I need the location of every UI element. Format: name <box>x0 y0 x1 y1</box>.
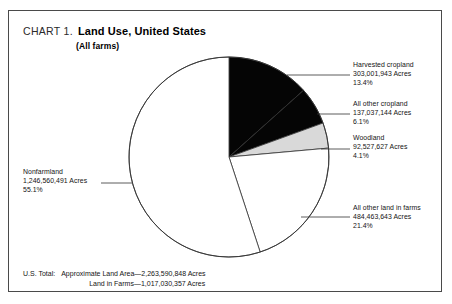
callout-other-cropland-acres: 137,037,144 Acres <box>353 108 411 117</box>
callout-other-land-percent: 21.4% <box>353 221 421 230</box>
callout-harvested-cropland: Harvested cropland 303,001,943 Acres 13.… <box>353 60 414 88</box>
chart-number-label: CHART 1. <box>23 25 73 37</box>
callout-other-cropland-name: All other cropland <box>353 99 411 108</box>
pie-outline <box>129 57 329 257</box>
page-title: Land Use, United States <box>78 25 206 37</box>
callout-woodland-percent: 4.1% <box>353 151 407 160</box>
chart-frame: CHART 1.Land Use, United States (All far… <box>8 10 442 292</box>
leader-line-group <box>101 75 350 217</box>
chart-footer: U.S. Total: Approximate Land Area—2,263,… <box>23 269 206 289</box>
callout-woodland: Woodland 92,527,627 Acres 4.1% <box>353 133 407 161</box>
footer-approximate-land-area: Approximate Land Area—2,263,590,848 Acre… <box>61 269 205 279</box>
callout-nonfarmland-percent: 55.1% <box>23 185 87 194</box>
callout-harvested-acres: 303,001,943 Acres <box>353 69 414 78</box>
callout-all-other-land-in-farms: All other land in farms 484,463,643 Acre… <box>353 203 421 231</box>
callout-harvested-name: Harvested cropland <box>353 60 414 69</box>
callout-other-cropland-percent: 6.1% <box>353 117 411 126</box>
pie-slice-woodland <box>229 123 329 157</box>
callout-other-land-acres: 484,463,643 Acres <box>353 212 421 221</box>
chart-header: CHART 1.Land Use, United States (All far… <box>23 21 206 51</box>
pie-slice-all-other-cropland <box>229 90 323 157</box>
chart-subtitle: (All farms) <box>76 41 206 51</box>
callout-woodland-acres: 92,527,627 Acres <box>353 142 407 151</box>
callout-woodland-name: Woodland <box>353 133 407 142</box>
pie-slice-group <box>129 57 329 257</box>
pie-slice-harvested-cropland <box>229 57 304 157</box>
callout-nonfarmland-acres: 1,246,560,491 Acres <box>23 176 87 185</box>
footer-total-label: U.S. Total: <box>23 269 55 279</box>
pie-slice-all-other-land-in-farms <box>229 148 329 252</box>
footer-land-in-farms: Land in Farms—1,017,030,357 Acres <box>89 279 205 289</box>
callout-nonfarmland: Nonfarmland 1,246,560,491 Acres 55.1% <box>23 167 87 195</box>
callout-other-land-name: All other land in farms <box>353 203 421 212</box>
callout-nonfarmland-name: Nonfarmland <box>23 167 87 176</box>
pie-slice-nonfarmland <box>129 57 260 257</box>
callout-all-other-cropland: All other cropland 137,037,144 Acres 6.1… <box>353 99 411 127</box>
callout-harvested-percent: 13.4% <box>353 78 414 87</box>
